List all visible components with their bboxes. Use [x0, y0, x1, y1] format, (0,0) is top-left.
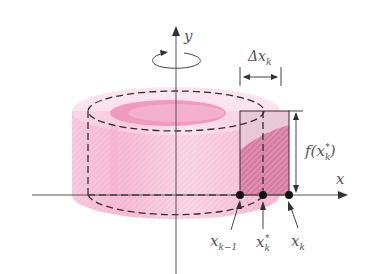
point-x-k [285, 191, 293, 199]
delta-x-dimension [240, 67, 281, 86]
y-axis-label: y [184, 29, 192, 44]
delta-x-label: Δxk [248, 49, 271, 67]
height-label: f(xk*) [305, 143, 336, 162]
point-x-k-minus-1 [236, 191, 244, 199]
x-k-star-label: xk* [256, 234, 269, 253]
x-k-label: xk [291, 234, 305, 252]
shell-method-diagram: y Δxk f(xk*) x xk−1 xk* xk [0, 0, 371, 274]
point-x-k-star [259, 191, 267, 199]
shell-rectangle [240, 111, 289, 195]
x-axis-label: x [336, 172, 344, 187]
height-dimension [288, 111, 303, 193]
x-k-minus-1-label: xk−1 [210, 234, 237, 252]
